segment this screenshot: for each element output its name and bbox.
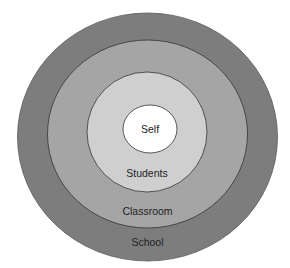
ring-label-students: Students [126, 167, 167, 179]
ring-label-school: School [131, 236, 163, 248]
ring-label-self: Self [141, 123, 159, 135]
ring-label-classroom: Classroom [122, 205, 172, 217]
concentric-circles-diagram: SchoolClassroomStudentsSelf [0, 0, 290, 268]
